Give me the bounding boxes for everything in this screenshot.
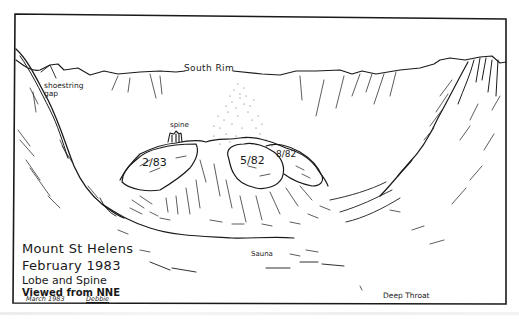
label-deep-throat: Deep Throat	[383, 292, 430, 300]
label-shoestring-gap: shoestring gap	[44, 82, 88, 98]
caption-drawn-date: March 1983	[26, 296, 65, 303]
artist-signature: Debbie	[86, 296, 109, 303]
spine	[168, 131, 182, 142]
scan-artifact-band	[0, 312, 519, 315]
caption-date: February 1983	[22, 259, 121, 272]
label-lobe-8-82: 8/82	[276, 150, 296, 159]
south-rim-skyline	[16, 56, 506, 75]
caption-title: Mount St Helens	[22, 242, 133, 255]
label-lobe-5-82: 5/82	[240, 155, 265, 166]
label-south-rim: South Rim	[184, 64, 234, 73]
left-crater-wall	[16, 49, 124, 218]
label-sauna: Sauna	[251, 251, 273, 258]
label-spine: spine	[170, 122, 189, 129]
caption-subject: Lobe and Spine	[22, 275, 107, 286]
label-lobe-2-83: 2/83	[142, 157, 167, 168]
